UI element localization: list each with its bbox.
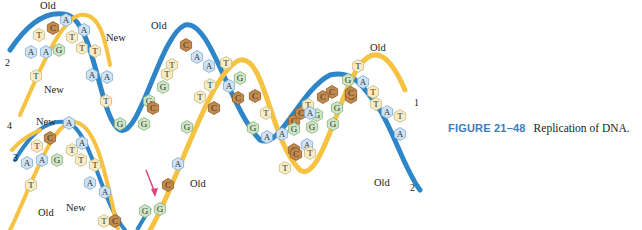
cytosine-base-icon: C (180, 39, 191, 52)
adenine-base-icon: A (191, 51, 202, 64)
new-strand-lower (10, 122, 118, 230)
cytosine-base-icon: C (162, 179, 173, 192)
svg-text:C: C (235, 93, 241, 103)
svg-text:T: T (28, 180, 34, 190)
adenine-base-icon: A (63, 117, 74, 130)
thymine-base-icon: T (194, 91, 205, 104)
cytosine-base-icon: C (208, 102, 219, 115)
svg-text:T: T (307, 148, 313, 158)
svg-text:T: T (92, 46, 98, 56)
thymine-base-icon: T (31, 140, 42, 153)
cytosine-base-icon: C (249, 90, 260, 103)
svg-text:A: A (89, 70, 96, 80)
svg-text:G: G (56, 45, 63, 55)
thymine-base-icon: T (394, 110, 405, 123)
svg-text:A: A (384, 107, 391, 117)
guanine-base-icon: G (157, 81, 168, 94)
thymine-base-icon: T (260, 107, 271, 120)
adenine-base-icon: A (357, 76, 368, 89)
svg-text:A: A (104, 72, 111, 82)
svg-text:G: G (330, 119, 337, 129)
guanine-base-icon: G (234, 72, 245, 85)
guanine-base-icon: G (138, 118, 149, 131)
guanine-base-icon: G (288, 123, 299, 136)
label-new: New (106, 32, 126, 43)
label-old: Old (374, 177, 390, 188)
svg-text:C: C (298, 108, 304, 118)
svg-text:T: T (169, 60, 175, 70)
svg-text:G: G (157, 204, 164, 214)
guanine-base-icon: G (247, 122, 258, 135)
svg-text:T: T (207, 80, 213, 90)
adenine-base-icon: A (381, 106, 392, 119)
svg-text:A: A (206, 61, 213, 71)
thymine-base-icon: T (100, 95, 111, 108)
svg-text:T: T (92, 160, 98, 170)
svg-text:A: A (175, 159, 182, 169)
figure-number: FIGURE 21–48 (448, 122, 526, 134)
svg-text:A: A (24, 158, 31, 168)
label-new: New (36, 116, 56, 127)
svg-text:G: G (142, 206, 149, 216)
dna-replication-diagram: ACTATAAGTTTAATCTAATTGATCCGTGCCGGGTGAACTG… (0, 0, 430, 230)
cytosine-base-icon: C (290, 148, 301, 161)
label-old: Old (40, 0, 56, 11)
svg-text:A: A (28, 47, 35, 57)
strand-number: 4 (7, 120, 12, 131)
label-old: Old (38, 207, 54, 218)
adenine-base-icon: A (86, 69, 97, 82)
adenine-base-icon: A (99, 186, 110, 199)
label-new: New (66, 202, 86, 213)
nucleotide-bases: ACTATAAGTTTAATCTAATTGATCCGTGCCGGGTGAACTG… (21, 14, 405, 228)
thymine-base-icon: T (161, 68, 172, 81)
adenine-base-icon: A (261, 131, 272, 144)
thymine-base-icon: T (89, 159, 100, 172)
cytosine-base-icon: C (147, 102, 158, 115)
svg-text:A: A (63, 15, 70, 25)
strand-number: 2 (5, 57, 10, 68)
svg-text:A: A (102, 187, 109, 197)
thymine-base-icon: T (76, 42, 87, 55)
svg-text:C: C (320, 92, 326, 102)
adenine-base-icon: A (101, 71, 112, 84)
guanine-base-icon: G (139, 205, 150, 218)
svg-text:T: T (282, 163, 288, 173)
guanine-base-icon: G (306, 121, 317, 134)
svg-text:T: T (79, 43, 85, 53)
adenine-base-icon: A (203, 60, 214, 73)
thymine-base-icon: T (370, 98, 381, 111)
thymine-base-icon: T (66, 31, 77, 44)
svg-text:A: A (360, 77, 367, 87)
old-strand-lower (15, 122, 125, 230)
guanine-base-icon: G (154, 203, 165, 216)
cytosine-base-icon: C (317, 91, 328, 104)
guanine-base-icon: G (51, 154, 62, 167)
strand-number: 3 (13, 152, 18, 163)
svg-text:G: G (54, 155, 61, 165)
svg-text:T: T (36, 30, 42, 40)
thymine-base-icon: T (220, 57, 231, 70)
svg-text:T: T (69, 32, 75, 42)
adenine-base-icon: A (76, 137, 87, 150)
svg-text:C: C (183, 40, 189, 50)
thymine-base-icon: T (204, 79, 215, 92)
strand-number: 1 (414, 97, 419, 108)
svg-text:C: C (348, 88, 354, 98)
svg-text:G: G (291, 124, 298, 134)
figure-caption: FIGURE 21–48Replication of DNA. (448, 118, 630, 136)
svg-text:T: T (397, 111, 403, 121)
adenine-base-icon: A (78, 24, 89, 37)
dna-helix-illustration: ACTATAAGTTTAATCTAATTGATCCGTGCCGGGTGAACTG… (0, 0, 430, 230)
thymine-base-icon: T (89, 45, 100, 58)
svg-text:G: G (184, 122, 191, 132)
thymine-base-icon: T (75, 154, 86, 167)
svg-text:T: T (373, 99, 379, 109)
guanine-base-icon: G (181, 121, 192, 134)
svg-text:C: C (293, 149, 299, 159)
thymine-base-icon: T (25, 179, 36, 192)
svg-text:A: A (81, 25, 88, 35)
svg-text:A: A (79, 138, 86, 148)
svg-text:A: A (226, 81, 233, 91)
svg-text:T: T (370, 87, 376, 97)
svg-text:T: T (355, 61, 361, 71)
